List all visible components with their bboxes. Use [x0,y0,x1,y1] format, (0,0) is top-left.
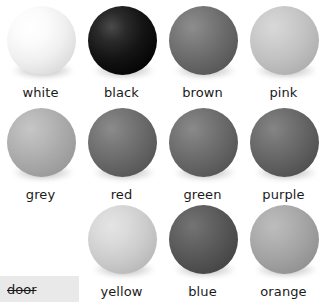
grid-cell-blue[interactable]: blue [162,201,243,304]
grid-cell-black[interactable]: black [81,2,162,105]
sphere-body [7,108,76,177]
color-sphere-grid: white black brown pink grey [0,0,326,308]
sphere-body [169,205,238,274]
sphere-green[interactable] [167,108,239,180]
grid-cell-white[interactable]: white [0,2,81,105]
sphere-white[interactable] [5,6,77,78]
struck-word-text: door [0,282,37,297]
sphere-pink[interactable] [248,6,320,78]
sphere-brown[interactable] [167,6,239,78]
sphere-body [88,205,157,274]
grid-cell-purple[interactable]: purple [243,104,324,207]
sphere-label: white [22,85,58,100]
grid-cell-green[interactable]: green [162,104,243,207]
sphere-yellow[interactable] [86,205,158,277]
sphere-label: pink [269,85,297,100]
sphere-red[interactable] [86,108,158,180]
grid-cell-orange[interactable]: orange [243,201,324,304]
sphere-body [169,108,238,177]
grid-cell-grey[interactable]: grey [0,104,81,207]
sphere-body [88,108,157,177]
sphere-body [250,6,319,75]
struck-word-chip[interactable]: door [0,276,79,302]
sphere-label: orange [260,284,306,299]
grid-cell-red[interactable]: red [81,104,162,207]
sphere-label: red [111,187,133,202]
sphere-label: green [183,187,221,202]
sphere-body [250,205,319,274]
sphere-label: black [104,85,139,100]
grid-cell-pink[interactable]: pink [243,2,324,105]
grid-cell-yellow[interactable]: yellow [81,201,162,304]
sphere-label: brown [182,85,223,100]
sphere-body [250,108,319,177]
sphere-black[interactable] [86,6,158,78]
sphere-label: blue [188,284,217,299]
sphere-label: purple [262,187,304,202]
sphere-purple[interactable] [248,108,320,180]
sphere-body [7,6,76,75]
sphere-label: grey [26,187,55,202]
sphere-body [169,6,238,75]
grid-cell-brown[interactable]: brown [162,2,243,105]
sphere-body [88,6,157,75]
sphere-blue[interactable] [167,205,239,277]
sphere-grey[interactable] [5,108,77,180]
sphere-orange[interactable] [248,205,320,277]
sphere-label: yellow [100,284,142,299]
